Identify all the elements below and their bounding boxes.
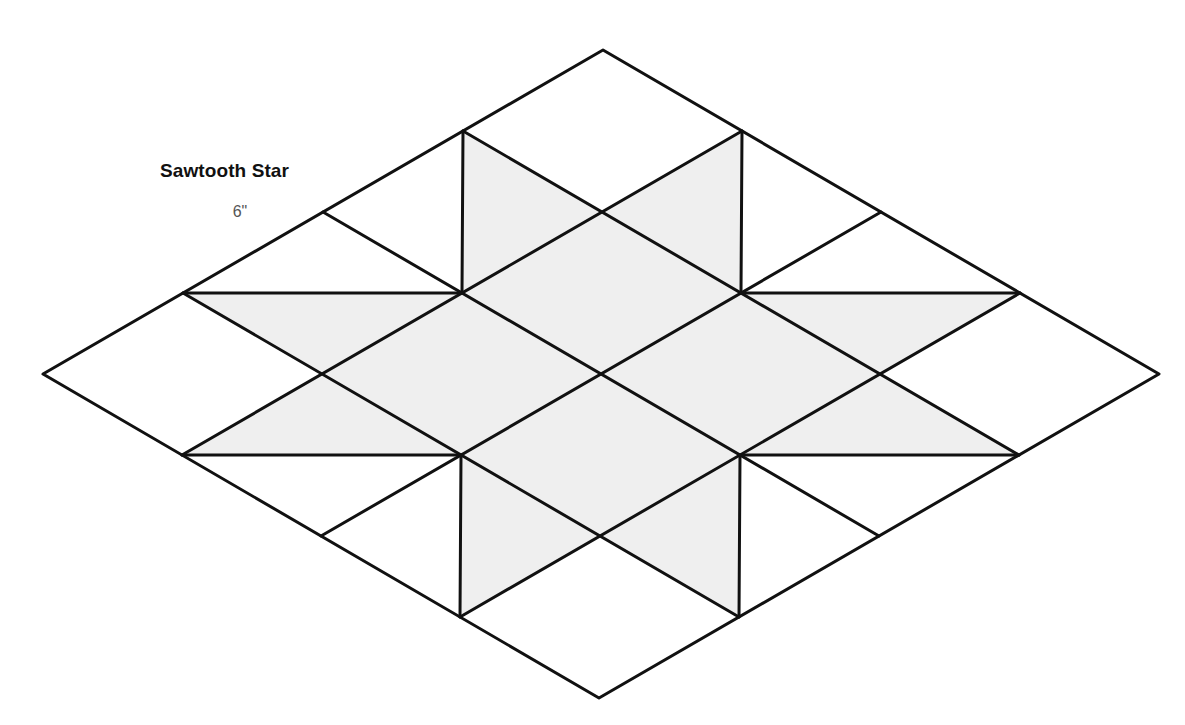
sawtooth-star-diagram — [0, 0, 1185, 725]
diag-top-left — [462, 131, 463, 293]
diag-bottom-left — [460, 455, 461, 617]
grid-lines — [43, 50, 1159, 698]
diag-bottom-right — [739, 455, 740, 617]
diag-top-right — [741, 131, 742, 293]
